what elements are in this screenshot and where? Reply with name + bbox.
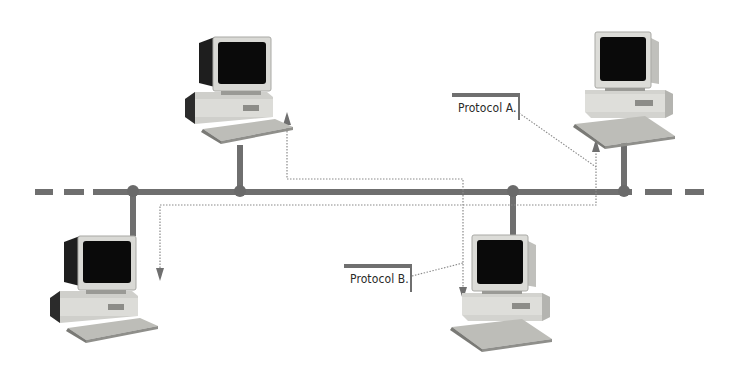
arrow-down-icon [156, 268, 164, 281]
protocol-a-label: Protocol A. [458, 101, 517, 115]
arrow-up-icon [283, 112, 291, 125]
computer-bottom-right [450, 235, 552, 352]
protocol-a-leader [519, 113, 596, 167]
protocol-a-tab-bar [452, 93, 520, 97]
desktop-computer-icon [185, 37, 293, 144]
desktop-computer-icon [50, 236, 158, 343]
protocol-b-tab-bar [344, 264, 412, 268]
desktop-computer-icon [573, 32, 675, 149]
network-diagram [0, 0, 740, 365]
protocol-b-label: Protocol B. [350, 272, 409, 286]
computer-top-right [573, 32, 675, 149]
computer-top-left [185, 37, 293, 144]
drop-cables [133, 140, 624, 236]
protocol-a-tab-stem [518, 93, 520, 120]
protocol-b-tab-stem [410, 264, 412, 292]
computer-bottom-left [50, 236, 158, 343]
desktop-computer-icon [450, 235, 552, 352]
protocol-b-leader [412, 263, 463, 276]
protocol-b-path [287, 125, 463, 287]
